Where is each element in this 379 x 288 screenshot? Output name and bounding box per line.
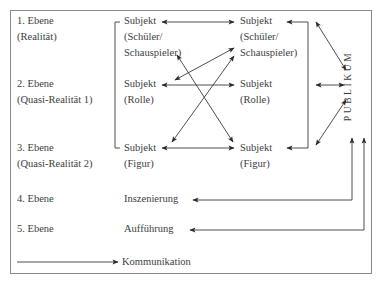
arrow-diag-schauspieler-figur [177, 55, 233, 142]
arrows-layer [0, 0, 379, 288]
right-bracket [299, 22, 308, 148]
arrow-auffuehrung [190, 138, 364, 230]
left-bracket [115, 22, 120, 148]
arrow-inszenierung [193, 138, 352, 200]
arrow-publikum-bottom [316, 100, 346, 145]
arrow-diag-rolle-schauspieler [175, 48, 234, 80]
arrow-publikum-top [316, 22, 346, 70]
